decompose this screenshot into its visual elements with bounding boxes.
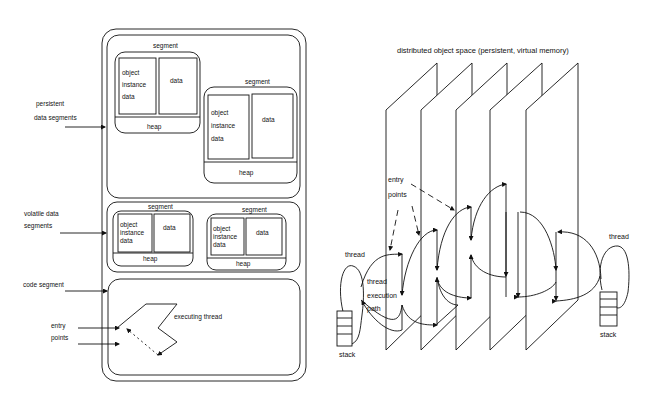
path-label-execution: execution — [367, 292, 397, 300]
code-segment-region — [108, 279, 300, 375]
segment-title: segment — [245, 78, 270, 86]
left-thread — [337, 266, 363, 346]
instance-label: instance — [120, 229, 144, 237]
data-block-label: data — [262, 116, 275, 124]
heap-label: heap — [236, 260, 250, 268]
instance-label: instance — [213, 233, 237, 241]
object-label: object — [122, 69, 139, 77]
object-space-title: distributed object space (persistent, vi… — [397, 47, 569, 55]
data-label: data — [120, 237, 133, 245]
code-segment-label: code segment — [23, 281, 64, 289]
data-block-label: data — [256, 229, 269, 237]
right-thread — [600, 246, 629, 326]
entry-label: entry — [388, 176, 404, 184]
executing-thread-label: executing thread — [174, 313, 222, 321]
object-label: object — [120, 221, 137, 229]
path-label-path: path — [367, 305, 381, 313]
instance-label: instance — [122, 81, 146, 89]
right-stack-label: stack — [600, 331, 616, 339]
segment-title: segment — [242, 206, 267, 214]
data-label: data — [211, 135, 224, 143]
volatile-label-2: segments — [24, 222, 52, 230]
data-label: data — [213, 241, 226, 249]
entry-label: entry — [51, 322, 65, 330]
object-label: object — [213, 225, 230, 233]
data-block-label: data — [163, 224, 176, 232]
heap-label: heap — [239, 169, 253, 177]
data-label: data — [122, 93, 135, 101]
instance-label: instance — [211, 122, 235, 130]
segment-title: segment — [153, 42, 178, 50]
heap-label: heap — [147, 123, 161, 131]
volatile-label-1: volatile data — [24, 210, 59, 218]
persistent-label-1: persistent — [36, 100, 64, 108]
diagram-canvas — [0, 0, 648, 395]
right-thread-label: thread — [609, 233, 629, 241]
object-space-planes — [386, 63, 578, 350]
data-block-label: data — [170, 77, 183, 85]
heap-label: heap — [143, 255, 157, 263]
left-stack-label: stack — [339, 351, 355, 359]
persistent-label-2: data segments — [34, 114, 77, 122]
path-label-thread: thread — [367, 278, 387, 286]
points-label: points — [388, 191, 407, 199]
points-label: points — [51, 334, 68, 342]
segment-title: segment — [148, 203, 173, 211]
executing-thread-path — [117, 304, 177, 355]
dotted-return-arrow — [127, 329, 158, 355]
object-label: object — [211, 109, 228, 117]
left-thread-label: thread — [345, 251, 365, 259]
volatile-region — [107, 202, 300, 272]
